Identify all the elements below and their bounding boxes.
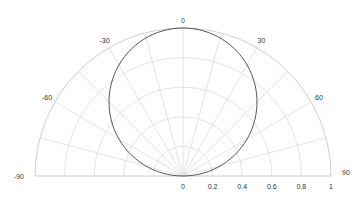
polar-grid — [35, 28, 331, 176]
r-tick-label: 0.8 — [297, 183, 307, 190]
theta-tick-label: 30 — [258, 37, 266, 44]
angular-gridline — [183, 138, 326, 176]
theta-tick-label: -30 — [99, 37, 109, 44]
angular-gridline — [183, 48, 257, 176]
theta-tick-label: -60 — [42, 94, 52, 101]
angular-gridline — [145, 33, 183, 176]
theta-tick-label: -90 — [14, 173, 24, 180]
angular-gridline — [78, 71, 183, 176]
r-tick-label: 0.4 — [237, 183, 247, 190]
axis-labels: -90-60-30030609000.20.40.60.81 — [14, 17, 350, 190]
r-tick-label: 0 — [181, 183, 185, 190]
theta-tick-label: 60 — [315, 94, 323, 101]
theta-tick-label: 0 — [181, 17, 185, 24]
r-tick-label: 0.2 — [208, 183, 218, 190]
angular-gridline — [183, 33, 221, 176]
angular-gridline — [40, 138, 183, 176]
r-tick-label: 1 — [329, 183, 333, 190]
r-tick-label: 0.6 — [267, 183, 277, 190]
angular-gridline — [109, 48, 183, 176]
angular-gridline — [183, 71, 288, 176]
polar-chart: -90-60-30030609000.20.40.60.81 — [0, 0, 363, 197]
theta-tick-label: 90 — [342, 169, 350, 176]
